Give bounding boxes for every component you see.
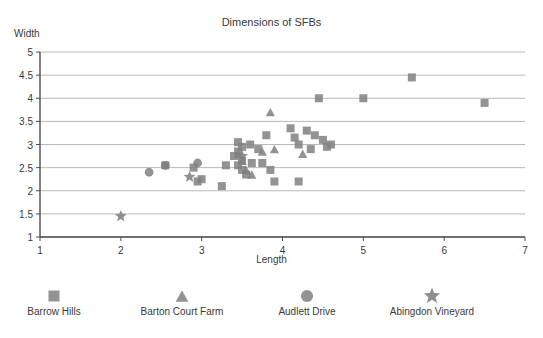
y-tick-label: 1.5 (19, 209, 33, 220)
data-point-square (291, 134, 299, 142)
y-tick-label: 1 (27, 232, 33, 243)
star-glyph (424, 288, 440, 303)
data-point-square (307, 145, 315, 153)
triangle-icon (169, 288, 195, 304)
data-point-square (315, 94, 323, 102)
legend-label: Abingdon Vineyard (352, 306, 512, 317)
legend-item-abingdon-vineyard[interactable]: Abingdon Vineyard (352, 288, 512, 317)
series-barrow-hills (161, 73, 488, 190)
data-point-square (270, 178, 278, 186)
x-tick-label: 2 (118, 245, 124, 256)
data-point-circle (161, 161, 170, 170)
data-point-square (258, 159, 266, 167)
data-point-square (359, 94, 367, 102)
star-icon (419, 288, 445, 304)
plot-area: 11.522.533.544.551234567 (0, 0, 543, 288)
chart-legend: Barrow HillsBarton Court FarmAudlett Dri… (0, 288, 543, 334)
data-point-circle (193, 159, 202, 168)
data-point-square (246, 141, 254, 149)
data-point-square (218, 182, 226, 190)
y-tick-label: 3 (27, 140, 33, 151)
y-tick-label: 2.5 (19, 163, 33, 174)
y-tick-label: 3.5 (19, 116, 33, 127)
data-point-triangle (270, 145, 279, 153)
square-glyph (49, 291, 60, 302)
data-point-triangle (298, 150, 307, 158)
data-point-square (262, 131, 270, 139)
x-tick-label: 1 (37, 245, 43, 256)
circle-glyph (301, 290, 313, 302)
x-tick-label: 4 (280, 245, 286, 256)
x-tick-label: 5 (361, 245, 367, 256)
data-point-square (248, 159, 256, 167)
data-point-circle (145, 168, 154, 177)
circle-icon (294, 288, 320, 304)
data-point-square (194, 178, 202, 186)
y-tick-label: 2 (27, 186, 33, 197)
data-point-square (287, 124, 295, 132)
x-tick-label: 6 (441, 245, 447, 256)
square-icon (41, 288, 67, 304)
x-tick-label: 7 (522, 245, 528, 256)
data-point-square (222, 161, 230, 169)
data-point-square (327, 141, 335, 149)
x-tick-label: 3 (199, 245, 205, 256)
series-abingdon-vineyard (115, 150, 248, 221)
data-point-square (266, 166, 274, 174)
y-tick-label: 4.5 (19, 70, 33, 81)
scatter-chart: Dimensions of SFBs Width Length 11.522.5… (0, 0, 543, 338)
data-point-square (311, 131, 319, 139)
data-point-triangle (266, 108, 275, 116)
data-point-square (408, 73, 416, 81)
triangle-glyph (176, 290, 189, 302)
data-point-square (481, 99, 489, 107)
data-point-square (295, 141, 303, 149)
y-tick-label: 5 (27, 47, 33, 58)
data-point-star (115, 210, 127, 221)
data-point-square (319, 136, 327, 144)
data-point-square (303, 127, 311, 135)
data-point-square (295, 178, 303, 186)
y-tick-label: 4 (27, 93, 33, 104)
